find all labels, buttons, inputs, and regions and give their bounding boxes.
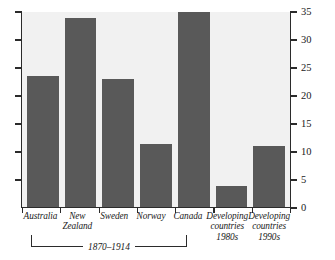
x-axis-line (21, 207, 291, 208)
y-tick-label-35: 35 (301, 7, 312, 18)
bar-slot (24, 12, 62, 208)
bar-slot (62, 12, 100, 208)
y-tick-right-10 (291, 151, 297, 152)
category-label-line: Australia (22, 211, 59, 221)
bar-canada (178, 12, 210, 208)
y-tick-right-15 (291, 123, 297, 124)
bar-australia (27, 76, 59, 208)
category-label-line: countries (248, 221, 290, 231)
category-label-line: Zealand (59, 221, 96, 231)
category-label-line: Sweden (96, 211, 133, 221)
category-label-line: 1990s (248, 232, 290, 242)
y-tick-label-0: 0 (301, 203, 306, 214)
y-tick-left-10 (15, 151, 21, 152)
y-tick-label-10: 10 (301, 147, 312, 158)
category-label-line: Developing (206, 211, 248, 221)
bar-new-zealand (65, 18, 97, 208)
y-axis-left-line (21, 11, 22, 208)
y-tick-left-30 (15, 39, 21, 40)
category-label-line: Developing (248, 211, 290, 221)
y-tick-left-5 (15, 179, 21, 180)
y-tick-right-30 (291, 39, 297, 40)
group-bracket-1870-1914: 1870–1914 (31, 235, 187, 247)
bar-slot (213, 12, 251, 208)
y-tick-label-25: 25 (301, 63, 312, 74)
bar-developing-countries-1990s (253, 146, 285, 208)
bar-sweden (102, 79, 134, 208)
y-tick-right-25 (291, 67, 297, 68)
y-tick-left-25 (15, 67, 21, 68)
y-tick-right-35 (291, 11, 297, 12)
bracket-label: 1870–1914 (31, 243, 187, 252)
y-tick-label-15: 15 (301, 119, 312, 130)
y-tick-label-5: 5 (301, 175, 306, 186)
plot-area (22, 12, 290, 208)
category-label-line: Canada (169, 211, 206, 221)
bar-slot (99, 12, 137, 208)
y-tick-right-20 (291, 95, 297, 96)
bar-developing-countries-1980s (216, 186, 248, 208)
bar-slot (250, 12, 288, 208)
category-label-developing-countries-1990s: Developingcountries1990s (248, 211, 290, 242)
bar-series (22, 12, 290, 208)
y-tick-left-35 (15, 11, 21, 12)
x-tick-7 (290, 208, 291, 213)
bar-slot (175, 12, 213, 208)
bracket-label-text: 1870–1914 (83, 242, 135, 252)
y-tick-right-5 (291, 179, 297, 180)
bar-chart-figure: 35302520151050 AustraliaNewZealandSweden… (0, 0, 335, 260)
bar-norway (140, 144, 172, 208)
category-label-line: Norway (133, 211, 170, 221)
y-tick-left-20 (15, 95, 21, 96)
category-label-line: New (59, 211, 96, 221)
category-label-line: 1980s (206, 232, 248, 242)
y-tick-label-30: 30 (301, 35, 312, 46)
y-tick-label-20: 20 (301, 91, 312, 102)
y-tick-right-0 (291, 207, 297, 208)
category-label-developing-countries-1980s: Developingcountries1980s (206, 211, 248, 242)
bar-slot (137, 12, 175, 208)
category-label-line: countries (206, 221, 248, 231)
y-tick-left-15 (15, 123, 21, 124)
